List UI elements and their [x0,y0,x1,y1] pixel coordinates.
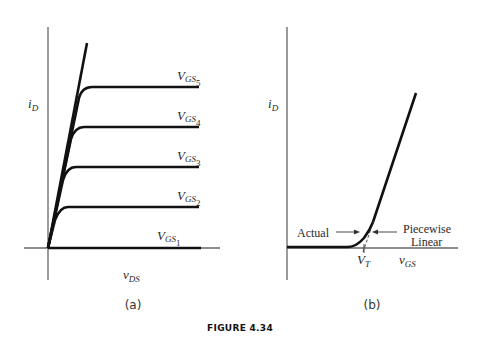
label-vgs4: VGS4 [177,108,201,128]
annotation-piecewise: Piecewise [403,222,451,236]
panel-b-y-label: iD [268,96,279,113]
label-vgs5: VGS5 [177,68,201,88]
panel-a: VGS5 VGS4 VGS3 VGS2 VGS1 iD vDS (a) [24,27,220,312]
panel-a-x-label: vDS [123,267,140,284]
label-vgs2: VGS2 [177,188,200,208]
panel-b-label: (b) [364,298,381,312]
curve-actual [287,93,416,247]
arrow-actual-head [354,230,360,235]
panel-a-label: (a) [125,298,142,312]
label-vgs1: VGS1 [157,228,180,248]
figure-canvas: VGS5 VGS4 VGS3 VGS2 VGS1 iD vDS (a) Actu… [0,0,481,343]
panel-b: Actual Piecewise Linear VT iD vGS (b) [268,27,458,312]
vt-label: VT [357,252,371,269]
annotation-actual: Actual [297,226,330,240]
panel-a-y-label: iD [28,96,39,113]
figure-caption: FIGURE 4.34 [207,323,273,333]
annotation-linear: Linear [411,235,442,249]
arrow-piecewise-head [372,230,378,235]
panel-b-x-label: vGS [399,252,416,269]
label-vgs3: VGS3 [177,148,201,168]
